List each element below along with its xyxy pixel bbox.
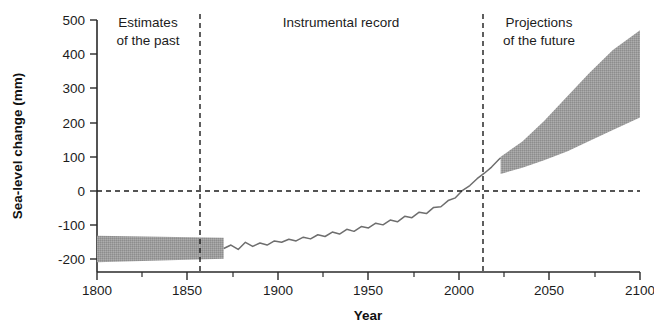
panel-label-projections-line1: Projections — [506, 15, 573, 30]
x-axis-tick-labels: 1800 1850 1900 1950 2000 2050 2100 — [82, 283, 654, 298]
y-label-neg200: -200 — [58, 252, 85, 267]
panel-label-projections-line2: of the future — [503, 33, 575, 48]
x-label-1950: 1950 — [353, 283, 383, 298]
x-label-1900: 1900 — [263, 283, 293, 298]
sea-level-change-chart: 500 400 300 200 100 0 -100 -200 Sea-leve… — [0, 0, 654, 331]
y-label-0: 0 — [77, 184, 85, 199]
x-axis-ticks — [97, 272, 640, 280]
y-label-200: 200 — [62, 116, 85, 131]
panel-label-estimates-line1: Estimates — [118, 15, 178, 30]
instrumental-record-line — [224, 158, 501, 250]
x-label-1850: 1850 — [172, 283, 202, 298]
past-estimates-band — [97, 236, 224, 262]
x-label-2050: 2050 — [534, 283, 564, 298]
panel-label-instrumental: Instrumental record — [283, 15, 399, 30]
y-label-neg100: -100 — [58, 218, 85, 233]
panel-label-estimates-line2: of the past — [116, 33, 179, 48]
chart-canvas: 500 400 300 200 100 0 -100 -200 Sea-leve… — [0, 0, 654, 331]
panel-label-projections: Projections of the future — [503, 15, 575, 48]
panel-label-estimates: Estimates of the past — [116, 15, 179, 48]
y-axis-title: Sea-level change (mm) — [10, 73, 25, 219]
x-label-2000: 2000 — [444, 283, 474, 298]
x-axis-title: Year — [354, 308, 383, 323]
panel-label-instrumental-line1: Instrumental record — [283, 15, 399, 30]
x-label-2100: 2100 — [625, 283, 654, 298]
y-axis-tick-labels: 500 400 300 200 100 0 -100 -200 — [58, 13, 85, 267]
y-axis-ticks — [90, 20, 97, 259]
y-label-300: 300 — [62, 81, 85, 96]
y-label-500: 500 — [62, 13, 85, 28]
x-label-1800: 1800 — [82, 283, 112, 298]
future-projections-band — [501, 30, 640, 174]
y-label-100: 100 — [62, 150, 85, 165]
y-label-400: 400 — [62, 47, 85, 62]
